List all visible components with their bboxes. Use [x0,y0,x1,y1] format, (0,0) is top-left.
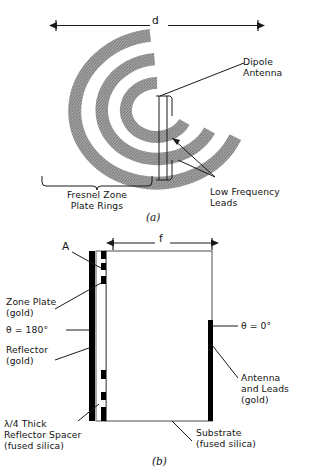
zone-plate-segment [101,392,106,400]
fresnel-rings [67,28,239,192]
low-frequency-leads-label-line1: Low Frequency [210,186,280,197]
fresnel-rings-label-line2: Plate Rings [27,200,167,211]
panel-a-graphics [42,20,258,191]
zone-plate-segment [101,276,106,284]
dimension-label-f: f [159,232,163,244]
zone-plate-label-line2: (gold) [6,307,34,318]
middle-ring [98,56,211,163]
outer-ring [67,28,239,192]
leader-antenna [212,345,238,378]
reflector-label-line1: Reflector [6,344,48,355]
antenna-leads-label-line2: and Leads [241,383,289,394]
zone-plate-segment [101,407,106,421]
zone-plate-segment [101,370,106,379]
spacer-label-line2: Reflector Spacer [4,429,81,440]
panel-b-caption: (b) [152,455,167,467]
antenna-leads-label-line3: (gold) [241,394,269,405]
inner-ring [125,82,185,138]
panel-a-caption: (a) [146,211,160,223]
spacer-label-line1: λ/4 Thick [4,418,47,429]
point-a-label: A [62,240,69,252]
antenna-leads-label-line1: Antenna [241,372,280,383]
leader-dipole-antenna [160,63,244,96]
theta-0-label: θ = 0° [241,320,271,331]
spacer-label-line3: (fused silica) [4,440,64,451]
zone-plate-label-line1: Zone Plate [6,296,56,307]
antenna-leads-bar [208,320,213,421]
zone-plate-segment [101,263,106,270]
dipole-antenna-label-line1: Dipole [243,56,273,67]
fresnel-zone-plate-figure: d Dipole Antenna Fresnel Zone Plate Ring… [0,0,316,476]
substrate-label-line1: Substrate [196,427,241,438]
leader-substrate [172,421,192,441]
low-frequency-leads-label-line2: Leads [210,197,237,208]
panel-b-graphics [55,238,238,441]
dipole-antenna-label-line2: Antenna [243,67,282,78]
reflector-bar [89,251,95,421]
reflector-label-line2: (gold) [6,355,34,366]
zone-plate-segment [101,251,106,259]
substrate-body [106,251,212,421]
fresnel-rings-label-line1: Fresnel Zone [27,189,167,200]
dimension-label-d: d [152,14,159,26]
substrate-label-line2: (fused silica) [196,438,256,449]
theta-180-label: θ = 180° [6,324,48,335]
leader-reflector [55,348,89,360]
